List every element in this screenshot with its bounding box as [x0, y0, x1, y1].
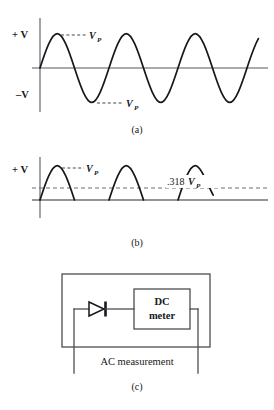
panel-c-circuit: DC meter AC measurement (c) — [0, 263, 274, 410]
panel-b-positive-axis-label: + V — [12, 164, 28, 175]
panel-b-average-coefficient: .318 — [167, 176, 185, 187]
dc-meter-label-line1: DC — [154, 296, 169, 307]
panel-a-trough-label: V — [126, 98, 134, 109]
panel-b-waveform: V P .318 V P + V (b) — [0, 145, 274, 263]
panel-a-negative-axis-label: –V — [15, 89, 29, 100]
circuit-enclosure-box — [62, 274, 210, 347]
panel-a-peak-label-subscript: P — [97, 36, 102, 44]
figure-root: V P V P + V –V (a) V P .318 V P + V — [0, 0, 274, 410]
panel-b-average-label-subscript: P — [196, 182, 201, 190]
dc-meter-box — [134, 289, 190, 329]
panel-a-waveform: V P V P + V –V (a) — [0, 0, 274, 145]
panel-b-peak-label: V — [86, 163, 94, 174]
panel-b-peak-label-subscript: P — [94, 169, 99, 177]
panel-a-positive-axis-label: + V — [12, 29, 28, 40]
ac-measurement-label: AC measurement — [100, 356, 173, 367]
dc-meter-label-line2: meter — [149, 310, 176, 321]
panel-b-caption: (b) — [131, 237, 143, 249]
panel-c-caption: (c) — [131, 381, 142, 393]
diode-triangle — [89, 302, 104, 316]
panel-a-trough-label-subscript: P — [134, 104, 139, 112]
panel-a-peak-label: V — [89, 30, 97, 41]
panel-b-hump-2 — [109, 166, 144, 200]
panel-a-caption: (a) — [131, 124, 142, 136]
panel-b-hump-1 — [40, 166, 75, 200]
diode-icon — [89, 302, 106, 317]
